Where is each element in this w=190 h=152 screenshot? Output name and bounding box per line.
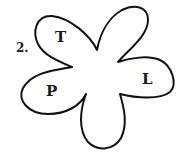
petal-letter-right: L [142,72,153,87]
question-number: 2. [16,42,29,54]
petal-letter-left: P [46,84,57,99]
flower-outline-icon [0,0,190,152]
petal-letter-top-left: T [55,30,66,45]
flower-diagram: 2. T L P [0,0,190,152]
